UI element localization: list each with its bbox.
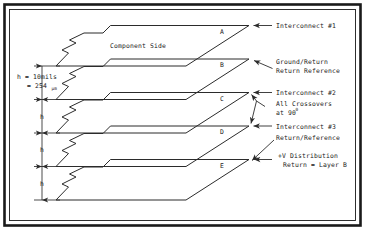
layer-letter-C: C xyxy=(220,95,224,103)
layer-letter-D: D xyxy=(220,128,224,136)
annotation-crossovers-line2: at 90 xyxy=(276,109,296,117)
dimension-label-h-micro-group: = 254 μm xyxy=(27,82,57,91)
crossovers-leader-lower xyxy=(251,101,257,124)
callout-ground-return-line2: Return Reference xyxy=(276,67,340,75)
dimension-label-h-3: h xyxy=(40,146,44,154)
dimension-label-h-micro-unit: μm xyxy=(52,86,58,91)
stackup-diagram: A B C D E Interconnect #1 Ground/Return … xyxy=(0,0,365,230)
dimension-label-h-micro: = 254 xyxy=(27,82,47,90)
callout-v-distribution-line2: Return = Layer B xyxy=(283,161,347,169)
figure-container: A B C D E Interconnect #1 Ground/Return … xyxy=(0,0,365,230)
callout-interconnect-2: Interconnect #2 xyxy=(276,89,336,97)
annotation-crossovers-line1: All Crossovers xyxy=(276,100,332,108)
layer-letter-B: B xyxy=(220,61,224,69)
component-side-label: Component Side xyxy=(110,42,166,50)
annotation-crossovers-degree: 0 xyxy=(296,107,299,112)
dimension-label-h-2: h xyxy=(40,113,44,121)
crossovers-leader xyxy=(257,101,266,107)
dimension-label-h-value: h = 10mils xyxy=(17,73,57,81)
callout-interconnect-1: Interconnect #1 xyxy=(276,22,336,30)
layer-letter-A: A xyxy=(220,28,224,36)
figure-inner-border xyxy=(10,10,356,221)
figure-outer-border xyxy=(5,5,361,226)
callout-leader-B xyxy=(254,61,273,69)
callout-interconnect-3: Interconnect #3 xyxy=(276,123,336,131)
return-reference-leader xyxy=(252,140,274,161)
annotation-return-reference: Return/Reference xyxy=(276,134,340,142)
callout-v-distribution-line1: +V Distribution xyxy=(278,152,338,160)
layer-letter-E: E xyxy=(220,162,224,170)
annotation-crossovers-line2-group: at 90 0 xyxy=(276,107,299,117)
callout-ground-return-line1: Ground/Return xyxy=(276,58,328,66)
crossovers-leader-upper xyxy=(252,95,257,102)
dimension-label-h-4: h xyxy=(40,180,44,188)
